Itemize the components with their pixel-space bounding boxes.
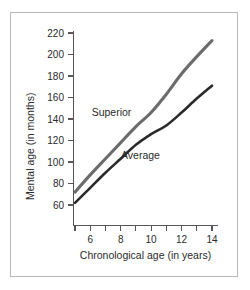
y-tick-label: 160 <box>47 92 64 103</box>
y-tick-label: 220 <box>47 28 64 39</box>
y-tick-label: 60 <box>53 200 65 211</box>
y-tick-label: 80 <box>53 178 65 189</box>
line-chart: 6080100120140160180200220 Mental age (in… <box>0 0 250 290</box>
x-tick-label: 6 <box>87 234 93 245</box>
x-axis-group: 68101214 Chronological age (in years) <box>73 226 218 262</box>
series-label-average: Average <box>121 149 160 161</box>
y-axis-title: Mental age (in months) <box>24 93 36 200</box>
y-tick-label: 140 <box>47 114 64 125</box>
y-tick-label: 100 <box>47 157 64 168</box>
x-axis-title: Chronological age (in years) <box>80 249 211 261</box>
x-tick-label: 12 <box>176 234 188 245</box>
y-tick-labels: 6080100120140160180200220 <box>47 28 64 211</box>
y-tick-label: 200 <box>47 49 64 60</box>
y-axis-group: 6080100120140160180200220 Mental age (in… <box>24 28 74 226</box>
series-label-superior: Superior <box>92 106 132 118</box>
series-line-average <box>75 86 212 203</box>
chart-figure: 6080100120140160180200220 Mental age (in… <box>0 0 250 290</box>
x-tick-marks <box>75 226 212 232</box>
x-tick-label: 8 <box>118 234 124 245</box>
x-tick-label: 10 <box>146 234 158 245</box>
y-tick-label: 120 <box>47 135 64 146</box>
x-tick-labels: 68101214 <box>87 234 218 245</box>
y-tick-label: 180 <box>47 71 64 82</box>
x-tick-label: 14 <box>206 234 218 245</box>
y-tick-marks <box>68 33 74 205</box>
data-series-group <box>75 41 212 203</box>
